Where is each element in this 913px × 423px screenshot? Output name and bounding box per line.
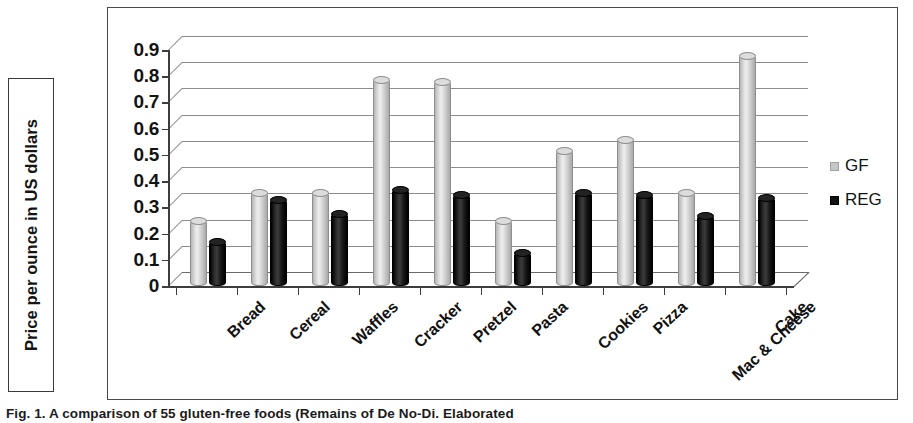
legend-swatch-reg (830, 196, 839, 205)
x-tick (786, 286, 787, 295)
y-tick (162, 50, 169, 52)
gridline-riser (168, 246, 183, 261)
bar-group (739, 36, 775, 286)
x-axis-label-cracker: Cracker (411, 298, 466, 351)
y-tick-label: 0.4 (133, 170, 159, 192)
bar-cap (331, 210, 348, 218)
bar-reg-pretzel[interactable] (453, 194, 470, 286)
bar-group (251, 36, 287, 286)
bar-gf-pasta[interactable] (495, 220, 512, 286)
bar-cap (636, 191, 653, 199)
y-axis-line (168, 50, 170, 286)
gridline-riser (168, 115, 183, 130)
bar-reg-bread[interactable] (209, 241, 226, 286)
y-tick-label: 0.8 (133, 65, 159, 87)
bar-cap (373, 76, 390, 84)
bar-cap (495, 217, 512, 225)
bar-group (678, 36, 714, 286)
figure-caption: Fig. 1. A comparison of 55 gluten-free f… (6, 406, 911, 422)
y-tick (162, 234, 169, 236)
bar-cap (575, 189, 592, 197)
y-axis-title-box: Price per ounce in US dollars (8, 78, 54, 392)
bar-cap (190, 217, 207, 225)
bar-gf-pizza[interactable] (617, 139, 634, 286)
y-tick-label: 0.9 (133, 39, 159, 61)
legend-item-gf[interactable]: GF (830, 156, 890, 176)
x-tick (542, 286, 543, 295)
x-tick (603, 286, 604, 295)
x-axis-label-pretzel: Pretzel (470, 298, 520, 346)
chart-frame: 0.90.80.70.60.50.40.30.20.10 BreadCereal… (107, 7, 898, 400)
bar-reg-cracker[interactable] (392, 189, 409, 286)
x-tick (237, 286, 238, 295)
y-tick-label: 0 (149, 275, 159, 297)
bar-cap (392, 186, 409, 194)
x-axis-label-bread: Bread (224, 298, 269, 342)
legend-item-reg[interactable]: REG (830, 190, 890, 210)
bar-gf-cake[interactable] (739, 55, 756, 286)
bar-reg-mac-cheese[interactable] (697, 215, 714, 286)
legend: GF REG (830, 156, 890, 224)
y-tick (162, 102, 169, 104)
legend-swatch-gf (830, 162, 839, 171)
bar-gf-pretzel[interactable] (434, 81, 451, 286)
x-axis-label-cookies: Cookies (595, 298, 652, 353)
bar-reg-pasta[interactable] (514, 252, 531, 286)
bar-group (556, 36, 592, 286)
gridline-riser (168, 193, 183, 208)
bar-reg-cake[interactable] (758, 197, 775, 286)
x-tick (359, 286, 360, 295)
bar-reg-cookies[interactable] (575, 192, 592, 286)
x-axis-label-cereal: Cereal (286, 298, 334, 344)
x-tick (298, 286, 299, 295)
bar-cap (453, 191, 470, 199)
bar-gf-cereal[interactable] (251, 192, 268, 286)
gridline-riser (168, 36, 183, 51)
bar-group (190, 36, 226, 286)
gridline-riser (168, 272, 183, 287)
y-tick (162, 129, 169, 131)
bar-group (312, 36, 348, 286)
y-tick-label: 0.6 (133, 118, 159, 140)
y-tick-label: 0.3 (133, 196, 159, 218)
y-axis-title: Price per ounce in US dollars (22, 119, 41, 351)
floor-right-edge (794, 272, 810, 287)
x-tick (725, 286, 726, 295)
x-axis-label-pasta: Pasta (528, 298, 571, 340)
y-tick (162, 260, 169, 262)
y-tick-label: 0.2 (133, 223, 159, 245)
x-tick (176, 286, 177, 295)
bar-gf-mac-cheese[interactable] (678, 192, 695, 286)
bar-gf-bread[interactable] (190, 220, 207, 286)
bar-cap (617, 136, 634, 144)
x-axis-label-pizza: Pizza (650, 298, 691, 338)
bar-gf-cookies[interactable] (556, 150, 573, 286)
y-tick (162, 76, 169, 78)
bar-cap (758, 194, 775, 202)
x-tick (664, 286, 665, 295)
y-tick-label: 0.1 (133, 249, 159, 271)
legend-label-reg: REG (845, 190, 882, 210)
legend-label-gf: GF (845, 156, 869, 176)
bar-reg-pizza[interactable] (636, 194, 653, 286)
y-tick (162, 207, 169, 209)
bar-reg-waffles[interactable] (331, 213, 348, 286)
y-tick (162, 181, 169, 183)
x-axis-label-waffles: Waffles (349, 298, 402, 349)
bar-cap (434, 78, 451, 86)
bar-cap (739, 52, 756, 60)
y-tick-label: 0.7 (133, 91, 159, 113)
bar-group (434, 36, 470, 286)
bar-gf-cracker[interactable] (373, 79, 390, 286)
x-tick (420, 286, 421, 295)
bar-cap (697, 212, 714, 220)
bar-reg-cereal[interactable] (270, 199, 287, 286)
plot-area: 0.90.80.70.60.50.40.30.20.10 BreadCereal… (168, 36, 808, 286)
bar-cap (678, 189, 695, 197)
gridline-riser (168, 62, 183, 77)
bar-gf-waffles[interactable] (312, 192, 329, 286)
bar-group (373, 36, 409, 286)
bar-cap (270, 196, 287, 204)
bar-group (617, 36, 653, 286)
y-tick (162, 155, 169, 157)
